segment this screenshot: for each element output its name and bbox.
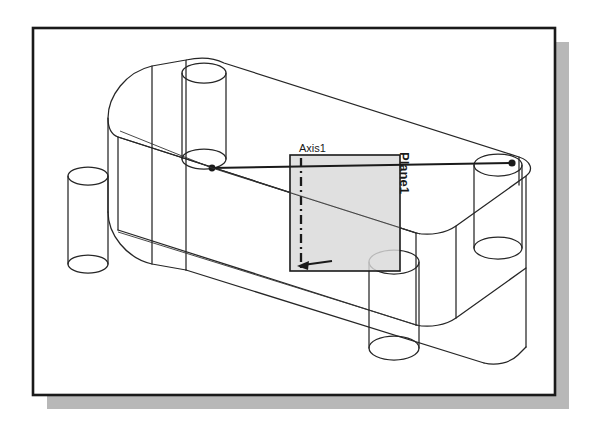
- axis-leader-end-dot: [508, 159, 515, 166]
- axis-label: Axis1: [299, 142, 326, 154]
- cad-screenshot-root: Axis1 Plane1: [0, 0, 589, 424]
- reference-plane-face[interactable]: [290, 155, 400, 271]
- reference-plane[interactable]: [290, 155, 400, 271]
- cad-graphics-area[interactable]: Axis1 Plane1: [0, 0, 589, 424]
- plane-label: Plane1: [397, 152, 412, 194]
